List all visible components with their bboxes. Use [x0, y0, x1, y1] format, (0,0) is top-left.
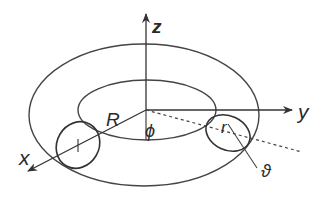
- major-radius-label: R: [106, 109, 120, 130]
- diagram-svg: z y x R ϕ r ϑ: [0, 0, 330, 199]
- torus-diagram: z y x R ϕ r ϑ: [0, 0, 330, 199]
- minor-radius-line: [228, 124, 257, 168]
- x-axis-label: x: [18, 146, 31, 169]
- x-axis: [28, 110, 146, 171]
- y-axis-label: y: [296, 100, 310, 123]
- z-axis-label: z: [151, 16, 162, 37]
- poloidal-angle-label: ϑ: [261, 161, 272, 181]
- minor-radius-label: r: [221, 118, 228, 137]
- right-cross-section: [200, 108, 256, 158]
- azimuth-label: ϕ: [145, 121, 155, 141]
